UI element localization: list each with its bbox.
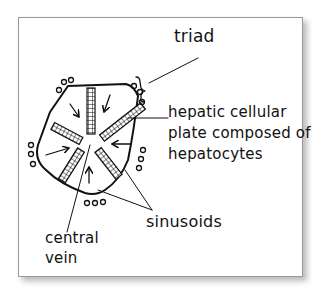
central-vein-label-line-1: central [45,228,99,248]
hepatic-plates [51,88,146,183]
triad-label: triad [174,26,215,46]
central-vein-label: central vein [45,228,99,268]
hepatic-plate-label: hepatic cellular plate composed of hepat… [168,102,311,165]
hepatic-plate-label-line-1: hepatic cellular [168,102,311,123]
central-vein-label-line-2: vein [45,248,99,268]
hepatic-plate-label-line-3: hepatocytes [168,144,311,165]
sinusoids-label: sinusoids [146,212,222,231]
hepatic-plate-label-line-2: plate composed of [168,123,311,144]
